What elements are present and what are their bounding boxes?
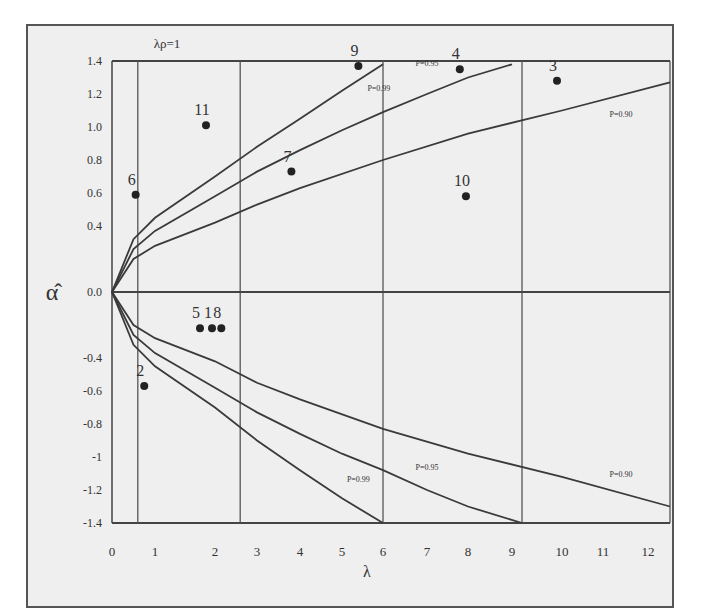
data-point-label: 3 [549, 57, 557, 74]
x-tick-label: 3 [254, 544, 261, 559]
x-tick-label: 8 [465, 544, 472, 559]
x-tick-label: 5 [339, 544, 346, 559]
data-point-label: 8 [213, 304, 221, 321]
y-tick-label: -1.2 [83, 483, 102, 497]
x-tick-label: 9 [509, 544, 516, 559]
data-point [462, 192, 470, 200]
y-tick-label: 0.4 [87, 219, 102, 233]
y-tick-label: -1.4 [83, 516, 102, 530]
data-point-label: 9 [350, 42, 358, 59]
y-tick-label: -0.8 [83, 417, 102, 431]
data-point-label: 4 [452, 45, 460, 62]
data-point [354, 62, 362, 70]
y-tick-label: 1.4 [87, 54, 102, 68]
y-tick-label: -0.6 [83, 384, 102, 398]
data-point-label: 5 [192, 304, 200, 321]
data-point-label: 1 [204, 304, 212, 321]
data-point-label: 6 [128, 171, 136, 188]
data-point [202, 121, 210, 129]
y-tick-label: -0.4 [83, 351, 102, 365]
curve-label: P=0.95 [416, 463, 439, 472]
curve-label: P=0.90 [610, 470, 633, 479]
x-tick-label: 7 [424, 544, 431, 559]
curve-label: P=0.90 [610, 110, 633, 119]
x-tick-label: 11 [597, 544, 610, 559]
y-tick-label: 0.8 [87, 153, 102, 167]
header-annotation: λρ=1 [154, 36, 181, 51]
data-point [217, 324, 225, 332]
data-point [196, 324, 204, 332]
y-tick-label: 0.0 [87, 285, 102, 299]
data-point [140, 382, 148, 390]
chart-figure: P=0.99P=0.95P=0.90P=0.99P=0.95P=0.901234… [0, 0, 711, 613]
x-tick-label: 0 [109, 544, 116, 559]
data-point-label: 11 [194, 101, 209, 118]
y-tick-label: 1.2 [87, 87, 102, 101]
x-tick-label: 12 [642, 544, 655, 559]
data-point [132, 191, 140, 199]
curve-label: P=0.95 [416, 59, 439, 68]
x-axis-label: λ [363, 563, 371, 580]
data-point-label: 7 [283, 148, 291, 165]
x-tick-label: 2 [212, 544, 219, 559]
data-point [287, 168, 295, 176]
data-point [208, 324, 216, 332]
data-point-label: 2 [136, 362, 144, 379]
curve-label: P=0.99 [347, 475, 370, 484]
y-tick-label: 1.0 [87, 120, 102, 134]
x-tick-label: 6 [380, 544, 387, 559]
x-tick-label: 4 [297, 544, 304, 559]
x-tick-label: 10 [556, 544, 569, 559]
data-point [553, 77, 561, 85]
data-point [456, 65, 464, 73]
y-tick-label: 0.6 [87, 186, 102, 200]
data-point-label: 10 [454, 172, 470, 189]
x-tick-label: 1 [152, 544, 159, 559]
y-tick-label: -1 [92, 450, 102, 464]
curve-label: P=0.99 [367, 84, 390, 93]
